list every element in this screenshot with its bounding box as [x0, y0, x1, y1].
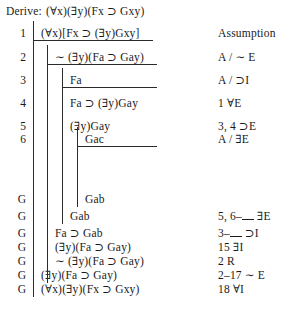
line-number: 4 — [0, 94, 26, 112]
line-number: G — [0, 280, 26, 298]
justification: 1 ∀E — [218, 94, 241, 112]
blank-line-reference — [230, 227, 242, 237]
blank-line-reference — [242, 210, 254, 220]
scope-bar-depth-1 — [33, 21, 34, 297]
justification: Assumption — [218, 24, 276, 42]
assumption-underline — [47, 64, 157, 65]
scope-bar-depth-3 — [62, 68, 63, 224]
derive-label: Derive: — [6, 5, 42, 17]
formula: Gab — [70, 207, 90, 225]
line-number: 3 — [0, 71, 26, 89]
line-number: G — [0, 190, 26, 208]
justification: A / ⊃I — [218, 71, 249, 89]
line-number: 1 — [0, 24, 26, 42]
assumption-underline — [62, 87, 157, 88]
justification: 18 ∀I — [218, 280, 244, 298]
assumption-underline — [77, 146, 157, 147]
line-number: 6 — [0, 130, 26, 148]
line-number: 2 — [0, 48, 26, 66]
natural-deduction-proof: Derive:(∀x)(∃y)(Fx ⊃ Gxy) 1(∀x)[Fx ⊃ (∃y… — [0, 0, 307, 312]
justification: A / ∃E — [218, 130, 249, 148]
formula: Gab — [85, 190, 105, 208]
derive-goal-formula: (∀x)(∃y)(Fx ⊃ Gxy) — [46, 5, 145, 17]
justification: 5, 6– ∃E — [218, 207, 271, 225]
formula: Fa ⊃ (∃y)Gay — [70, 94, 138, 112]
scope-bar-depth-2 — [47, 45, 48, 283]
justification: A / ∼ E — [218, 48, 256, 66]
assumption-underline — [33, 40, 153, 41]
line-number: G — [0, 207, 26, 225]
derive-goal-line: Derive:(∀x)(∃y)(Fx ⊃ Gxy) — [6, 4, 144, 18]
scope-bar-depth-4 — [77, 127, 78, 207]
formula: (∀x)(∃y)(Fx ⊃ Gxy) — [41, 280, 140, 298]
